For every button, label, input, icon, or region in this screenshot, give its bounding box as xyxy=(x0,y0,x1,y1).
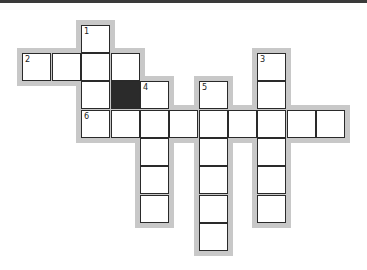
crossword-cell[interactable] xyxy=(140,166,169,194)
crossword-cell[interactable] xyxy=(81,53,110,81)
crossword-cell[interactable] xyxy=(52,53,81,81)
crossword-cell[interactable] xyxy=(111,53,140,81)
crossword-cell[interactable] xyxy=(140,195,169,223)
crossword-cell[interactable] xyxy=(199,138,228,166)
crossword-cell[interactable]: 2 xyxy=(22,53,51,81)
clue-number: 5 xyxy=(202,83,207,92)
crossword-cell[interactable] xyxy=(257,81,286,109)
crossword-cell[interactable] xyxy=(316,110,345,138)
crossword-cell[interactable] xyxy=(228,110,257,138)
crossword-cell[interactable]: 1 xyxy=(81,25,110,53)
top-border xyxy=(0,0,367,3)
black-cell xyxy=(111,81,140,109)
crossword-cell[interactable] xyxy=(257,138,286,166)
crossword-cell[interactable] xyxy=(199,166,228,194)
crossword-cell[interactable] xyxy=(140,138,169,166)
crossword-cell[interactable]: 5 xyxy=(199,81,228,109)
crossword-cell[interactable]: 4 xyxy=(140,81,169,109)
clue-number: 6 xyxy=(84,112,89,121)
crossword-cell[interactable] xyxy=(140,110,169,138)
crossword-cell[interactable] xyxy=(199,110,228,138)
crossword-cell[interactable] xyxy=(169,110,198,138)
clue-number: 4 xyxy=(143,83,148,92)
crossword-cell[interactable] xyxy=(199,195,228,223)
crossword-cell[interactable]: 3 xyxy=(257,53,286,81)
crossword-cell[interactable]: 6 xyxy=(81,110,110,138)
crossword-cell[interactable] xyxy=(287,110,316,138)
clue-number: 2 xyxy=(25,55,30,64)
clue-number: 3 xyxy=(260,55,265,64)
crossword-cell[interactable] xyxy=(199,223,228,251)
clue-number: 1 xyxy=(84,27,89,36)
crossword-cell[interactable] xyxy=(81,81,110,109)
crossword-cell[interactable] xyxy=(257,195,286,223)
crossword-cell[interactable] xyxy=(257,110,286,138)
crossword-cell[interactable] xyxy=(111,110,140,138)
crossword-cell[interactable] xyxy=(257,166,286,194)
